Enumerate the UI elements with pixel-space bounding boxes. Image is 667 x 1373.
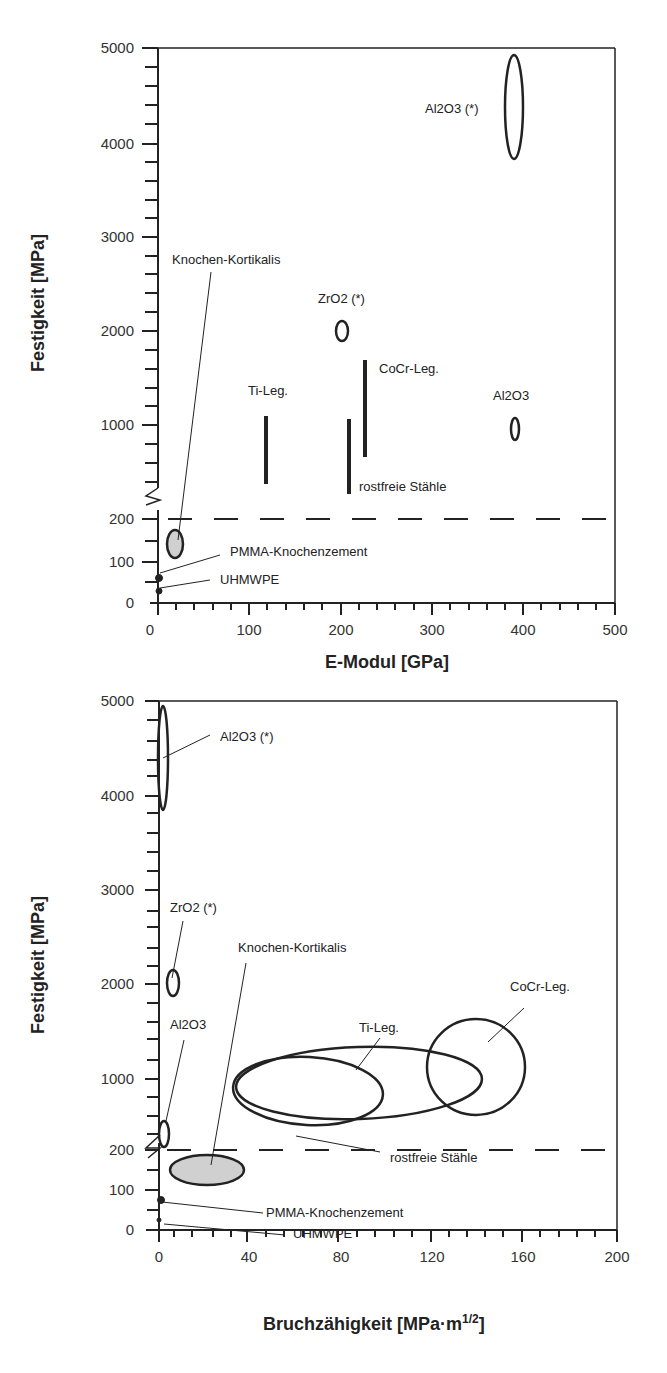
label-steel: rostfreie Stähle	[359, 479, 446, 494]
x-tick-160: 160	[510, 1248, 535, 1265]
region-knochen	[167, 530, 183, 558]
y-axis-title: Festigkeit [MPa]	[28, 896, 48, 1034]
chart-bruchzaehigkeit	[145, 701, 617, 1242]
x-axis-title-end: ]	[479, 1314, 485, 1334]
label-cocr: CoCr-Leg.	[510, 979, 570, 994]
y-tick-3000: 3000	[101, 228, 134, 245]
label-ti: Ti-Leg.	[359, 1020, 399, 1035]
label-zro2: ZrO2 (*)	[318, 291, 365, 306]
region-zro2	[336, 321, 348, 341]
label-al2o3-star: Al2O3 (*)	[220, 729, 273, 744]
label-al2o3: Al2O3	[493, 388, 529, 403]
label-knochen: Knochen-Kortikalis	[172, 252, 281, 267]
label-steel: rostfreie Stähle	[390, 1150, 477, 1165]
y-tick-1000: 1000	[101, 416, 134, 433]
y-tick-5000: 5000	[101, 39, 134, 56]
y-tick-100: 100	[109, 1181, 134, 1198]
x-tick-0: 0	[155, 1248, 163, 1265]
y-tick-0: 0	[126, 1221, 134, 1238]
point-pmma	[156, 575, 163, 582]
material-charts: 5000 4000 3000 2000 1000 200 100 0 0 100…	[0, 0, 667, 1373]
y-tick-2000: 2000	[101, 975, 134, 992]
label-al2o3: Al2O3	[170, 1017, 206, 1032]
region-ti	[235, 1043, 483, 1124]
x-axis-title: Bruchzähigkeit [MPa·m1/2]	[263, 1312, 485, 1334]
y-tick-4000: 4000	[101, 787, 134, 804]
y-tick-200: 200	[109, 510, 134, 527]
label-pmma: PMMA-Knochenzement	[266, 1205, 404, 1220]
x-axis-title-main: Bruchzähigkeit [MPa·m	[263, 1314, 462, 1334]
x-tick-400: 400	[510, 621, 535, 638]
y-tick-2000: 2000	[101, 322, 134, 339]
x-tick-200: 200	[604, 1248, 629, 1265]
label-zro2: ZrO2 (*)	[170, 900, 217, 915]
x-tick-500: 500	[602, 621, 627, 638]
axis-break-icon	[146, 488, 160, 505]
region-al2o3-star	[505, 55, 523, 159]
label-uhmwpe: UHMWPE	[293, 1226, 353, 1241]
chart-bruchzaehigkeit-text: 5000 4000 3000 2000 1000 200 100 0 0 40 …	[28, 692, 630, 1334]
point-uhmwpe	[157, 1218, 161, 1222]
x-tick-0: 0	[146, 621, 154, 638]
y-tick-100: 100	[109, 553, 134, 570]
y-tick-3000: 3000	[101, 881, 134, 898]
label-ti: Ti-Leg.	[248, 383, 288, 398]
y-axis-title: Festigkeit [MPa]	[28, 234, 48, 372]
x-tick-40: 40	[241, 1248, 258, 1265]
x-axis-title: E-Modul [GPa]	[325, 652, 449, 672]
chart-emodul	[142, 48, 615, 615]
label-knochen: Knochen-Kortikalis	[238, 940, 347, 955]
y-tick-5000: 5000	[101, 692, 134, 709]
y-tick-200: 200	[109, 1141, 134, 1158]
x-tick-120: 120	[419, 1248, 444, 1265]
x-tick-300: 300	[419, 621, 444, 638]
region-knochen	[170, 1155, 244, 1185]
x-axis-title-superscript: 1/2	[462, 1312, 479, 1326]
chart-emodul-text: 5000 4000 3000 2000 1000 200 100 0 0 100…	[28, 39, 628, 672]
region-al2o3	[511, 418, 519, 440]
region-al2o3	[159, 1121, 169, 1147]
x-tick-80: 80	[333, 1248, 350, 1265]
label-al2o3-star: Al2O3 (*)	[425, 101, 478, 116]
x-tick-100: 100	[236, 621, 261, 638]
label-uhmwpe: UHMWPE	[220, 572, 280, 587]
label-cocr: CoCr-Leg.	[379, 361, 439, 376]
y-tick-1000: 1000	[101, 1070, 134, 1087]
label-pmma: PMMA-Knochenzement	[230, 544, 368, 559]
axis-break-icon	[146, 1135, 160, 1158]
y-tick-4000: 4000	[101, 135, 134, 152]
point-uhmwpe	[156, 588, 162, 594]
x-tick-200: 200	[328, 621, 353, 638]
y-tick-0: 0	[126, 594, 134, 611]
